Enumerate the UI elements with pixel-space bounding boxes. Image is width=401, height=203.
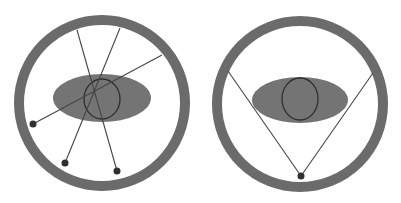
central-ellipse [53, 74, 151, 122]
source-dot [30, 121, 37, 128]
source-dot [298, 173, 305, 180]
central-ellipse [252, 77, 348, 123]
diagram-single-source [217, 21, 383, 187]
diagram-multiple-sources [19, 20, 185, 186]
source-dot [114, 168, 121, 175]
diagram-svg [0, 0, 401, 203]
source-dot [62, 160, 69, 167]
diagram-canvas [0, 0, 401, 203]
